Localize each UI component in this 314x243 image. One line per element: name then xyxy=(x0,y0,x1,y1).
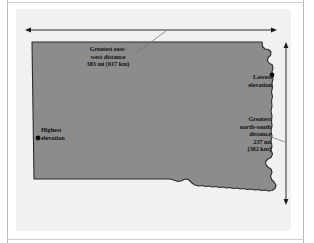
lowest-elevation-label: Lowest elevation xyxy=(220,73,272,88)
greatest-north-south-distance-label: Greatest north-south distance 237 mi (38… xyxy=(209,115,271,153)
east-west-measure-arrow xyxy=(25,28,277,33)
highest-elevation-label: Highest elevation xyxy=(41,126,97,141)
greatest-east-west-distance-label: Greatest east- west distance 383 mi (617… xyxy=(66,45,150,68)
figure-container: Greatest east- west distance 383 mi (617… xyxy=(0,0,314,243)
north-south-measure-arrow xyxy=(284,42,289,205)
highest-elevation-dot xyxy=(36,136,41,141)
